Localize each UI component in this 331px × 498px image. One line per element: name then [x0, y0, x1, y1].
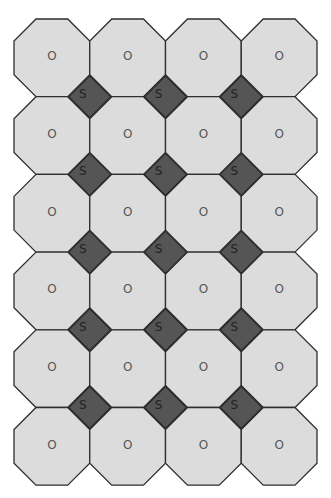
square-label: S	[155, 164, 163, 178]
octagon-tile: O	[14, 408, 90, 486]
octagon-tile: O	[90, 330, 166, 408]
octagon-tile: O	[166, 19, 242, 97]
square-label: S	[155, 398, 163, 412]
octagon-label: O	[47, 127, 56, 141]
octagon-label: O	[47, 282, 56, 296]
square-label: S	[79, 320, 87, 334]
square-label: S	[79, 242, 87, 256]
octagon-tile: O	[14, 97, 90, 175]
octagon-tile: O	[241, 19, 317, 97]
square-label: S	[79, 398, 87, 412]
octagon-tile: O	[166, 252, 242, 330]
octagon-tile: O	[14, 330, 90, 408]
octagon-label: O	[123, 438, 132, 452]
octagon-label: O	[199, 127, 208, 141]
octagon-label: O	[274, 282, 283, 296]
octagon-label: O	[274, 205, 283, 219]
octagon-tile: O	[14, 19, 90, 97]
square-label: S	[230, 320, 238, 334]
octagon-label: O	[274, 360, 283, 374]
octagon-label: O	[199, 49, 208, 63]
octagon-label: O	[47, 49, 56, 63]
square-label: S	[230, 398, 238, 412]
octagon-label: O	[47, 205, 56, 219]
octagon-tile: O	[241, 174, 317, 252]
octagon-label: O	[123, 49, 132, 63]
octagon-label: O	[123, 205, 132, 219]
octagon-tile: O	[90, 252, 166, 330]
square-label: S	[230, 164, 238, 178]
octagon-tile: O	[241, 408, 317, 486]
octagon-label: O	[199, 282, 208, 296]
octagon-tile: O	[166, 408, 242, 486]
octagon-tile: O	[90, 174, 166, 252]
octagon-tile: O	[241, 97, 317, 175]
octagon-label: O	[199, 438, 208, 452]
square-label: S	[155, 242, 163, 256]
square-label: S	[155, 320, 163, 334]
square-label: S	[230, 87, 238, 101]
octagon-label: O	[123, 127, 132, 141]
octagon-label: O	[47, 360, 56, 374]
octagon-tile: O	[241, 330, 317, 408]
octagon-tile: O	[90, 19, 166, 97]
octagon-label: O	[123, 282, 132, 296]
square-label: S	[230, 242, 238, 256]
octagon-tile: O	[166, 97, 242, 175]
octagon-square-tiling: OOOOOOOOOOOOOOOOOOOOOOOO SSSSSSSSSSSSSSS	[0, 0, 331, 498]
octagon-tile: O	[166, 174, 242, 252]
square-label: S	[79, 164, 87, 178]
octagon-tile: O	[14, 174, 90, 252]
octagon-label: O	[123, 360, 132, 374]
octagon-tile: O	[90, 408, 166, 486]
octagon-tile: O	[241, 252, 317, 330]
octagon-label: O	[274, 127, 283, 141]
octagon-label: O	[274, 49, 283, 63]
octagon-tile: O	[166, 330, 242, 408]
square-label: S	[79, 87, 87, 101]
octagon-tile: O	[90, 97, 166, 175]
octagon-label: O	[47, 438, 56, 452]
octagon-tile: O	[14, 252, 90, 330]
octagon-label: O	[274, 438, 283, 452]
octagon-label: O	[199, 360, 208, 374]
square-label: S	[155, 87, 163, 101]
octagon-label: O	[199, 205, 208, 219]
